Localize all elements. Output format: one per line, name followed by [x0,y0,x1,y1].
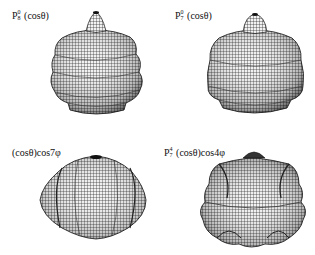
lobed-ellipsoid [40,155,146,239]
star-lobed-body [200,152,305,247]
panel-p7-0: P07 (cosθ) [157,0,315,128]
panel-p8-0: P08 (cosθ) [0,0,157,128]
bulb-body [207,30,303,113]
surface-plot-p7-0 [157,0,315,128]
bulb-cap [86,11,106,33]
bulb-body [51,30,142,114]
surface-plot-cos7phi [0,128,157,255]
panel-p7-4-cos4phi: P47 (cosθ)cos4φ [157,128,315,255]
bulb-cap [243,13,267,33]
panel-cos7phi: (cosθ)cos7φ [0,128,157,255]
surface-plot-p8-0 [0,0,157,128]
surface-plot-p7-4 [157,128,315,255]
